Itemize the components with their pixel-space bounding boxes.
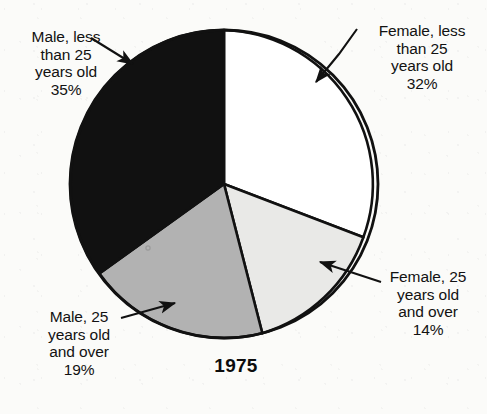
slice-label-male-25-and-over: Male, 25 years old and over 19% (16, 308, 142, 378)
pie-chart-figure: Male, less than 25 years old 35% Female,… (0, 0, 487, 414)
slice-label-female-25-and-over: Female, 25 years old and over 14% (370, 268, 486, 338)
slice-label-male-under-25: Male, less than 25 years old 35% (2, 28, 130, 98)
leader-line-female-under-25 (316, 29, 357, 82)
slice-label-female-under-25: Female, less than 25 years old 32% (358, 22, 486, 92)
chart-title: 1975 (176, 355, 296, 377)
